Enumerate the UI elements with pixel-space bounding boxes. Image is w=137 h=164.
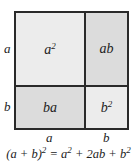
- identity-equation: (a + b)2 = a2 + 2ab + b2: [0, 145, 137, 162]
- eq-mid: = a: [46, 147, 67, 161]
- bottom-label-a: a: [46, 130, 53, 146]
- eq-lhs: (a + b): [6, 147, 42, 161]
- eq-rest: + 2ab + b: [72, 147, 126, 161]
- outer-square: [14, 11, 129, 130]
- vertical-divider: [84, 13, 86, 128]
- bottom-label-b: b: [103, 130, 110, 146]
- eq-rest-exp: 2: [126, 145, 131, 155]
- side-label-a: a: [4, 41, 11, 57]
- side-label-b: b: [4, 99, 11, 115]
- horizontal-divider: [16, 85, 127, 87]
